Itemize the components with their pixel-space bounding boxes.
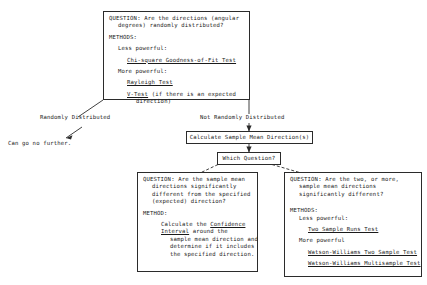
branch-label-not-randomly-distributed: Not Randomly Distributed — [200, 114, 284, 121]
right-question-line-3: significantly different? — [290, 191, 417, 198]
chi-square-test-link[interactable]: Chi-square Goodness-of-Fit Test — [109, 57, 245, 64]
arrowhead-left-terminal — [66, 135, 73, 139]
left-body-suffix: around the — [189, 228, 228, 234]
left-question-line-1: QUESTION: Are the sample mean — [143, 176, 253, 183]
left-body-line-3: sample mean direction and — [143, 236, 253, 243]
left-body-line-5: the specified direction. — [143, 251, 253, 258]
left-question-line-3: different from the specified — [143, 191, 253, 198]
left-question-line-4: (expected) direction? — [143, 198, 253, 205]
left-body-prefix: Calculate the — [161, 221, 210, 227]
watson-williams-two-sample-test-link[interactable]: Watson-Williams Two Sample Test — [290, 249, 417, 256]
two-sample-runs-test-link[interactable]: Two Sample Runs Test — [290, 226, 417, 233]
left-question-line-2: directions significantly — [143, 183, 253, 190]
which-question-box: Which Question? — [217, 152, 281, 165]
right-question-line-2: sample mean directions — [290, 183, 417, 190]
left-body-line-2: Interval around the — [143, 228, 253, 235]
right-methods-label: METHODS: — [290, 207, 417, 214]
which-question-label: Which Question? — [223, 155, 276, 162]
top-question-line-2: degrees) randomly distributed? — [109, 22, 245, 29]
right-question-box: QUESTION: Are the two, or more, sample m… — [284, 172, 422, 277]
flowchart-canvas: QUESTION: Are the directions (angular de… — [0, 0, 427, 285]
rayleigh-test-link[interactable]: Rayleigh Test — [109, 79, 245, 86]
left-body-line-4: determine if it includes — [143, 243, 253, 250]
top-question-box: QUESTION: Are the directions (angular de… — [103, 11, 250, 100]
top-less-powerful-label: Less powerful: — [109, 45, 245, 52]
left-method-label: METHOD: — [143, 210, 253, 217]
v-test-row: V-Test (if there is an expected — [109, 91, 245, 98]
terminal-label-can-go-no-further: Can go no further. — [8, 140, 71, 147]
v-test-link[interactable]: V-Test — [127, 91, 148, 97]
confidence-interval-link-1[interactable]: Confidence — [210, 221, 245, 227]
calculate-sample-mean-label: Calculate Sample Mean Direction(s) — [190, 134, 310, 141]
wire-left-terminal — [66, 127, 82, 138]
left-question-box: QUESTION: Are the sample mean directions… — [137, 172, 258, 272]
calculate-sample-mean-box: Calculate Sample Mean Direction(s) — [186, 131, 313, 144]
v-test-note-2: direction) — [109, 98, 245, 105]
top-methods-label: METHODS: — [109, 34, 245, 41]
right-question-line-1: QUESTION: Are the two, or more, — [290, 176, 417, 183]
left-body-line-1: Calculate the Confidence — [143, 221, 253, 228]
watson-williams-multisample-test-link[interactable]: Watson-Williams Multisample Test — [290, 260, 417, 267]
right-more-powerful-label: More powerful — [290, 237, 417, 244]
branch-label-randomly-distributed: Randomly Distributed — [40, 114, 110, 121]
right-less-powerful-label: Less powerful: — [290, 215, 417, 222]
confidence-interval-link-2[interactable]: Interval — [161, 228, 189, 234]
v-test-note: (if there is an expected — [148, 91, 236, 97]
top-more-powerful-label: More powerful: — [109, 68, 245, 75]
top-question-line-1: QUESTION: Are the directions (angular — [109, 15, 245, 22]
